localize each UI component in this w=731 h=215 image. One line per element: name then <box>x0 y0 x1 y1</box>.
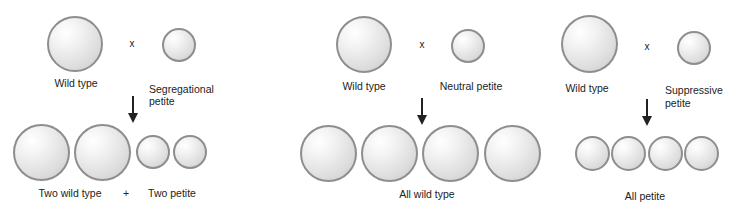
plus-symbol: + <box>123 187 129 199</box>
down-arrow-icon <box>132 96 134 115</box>
progeny-petite-cell <box>173 135 207 169</box>
suppressive-petite-label-line1: Suppressive <box>665 84 723 96</box>
progeny-petite-cell <box>684 136 719 171</box>
progeny-petite-cell <box>648 136 683 171</box>
all-wild-type-label: All wild type <box>399 188 454 200</box>
progeny-wild-type-cell <box>74 124 131 181</box>
cross-symbol: x <box>130 38 135 49</box>
wild-type-label: Wild type <box>565 82 608 94</box>
cross-symbol: x <box>420 39 425 50</box>
wild-type-label: Wild type <box>54 77 97 89</box>
progeny-wild-type-cell <box>300 125 357 182</box>
all-petite-label: All petite <box>625 190 665 202</box>
wild-type-cell <box>561 15 618 73</box>
wild-type-cell <box>336 16 392 73</box>
progeny-wild-type-cell <box>361 125 418 182</box>
cross-symbol: x <box>645 41 650 52</box>
petite-cell <box>451 29 485 63</box>
suppressive-petite-label-line2: petite <box>665 97 691 109</box>
two-petite-label: Two petite <box>148 187 196 199</box>
progeny-wild-type-cell <box>484 125 541 182</box>
petite-cell <box>677 31 711 65</box>
down-arrow-icon <box>646 99 648 118</box>
segregational-petite-label-line1: Segregational <box>149 83 214 95</box>
wild-type-cell <box>47 16 103 72</box>
petite-cell <box>162 28 196 62</box>
progeny-wild-type-cell <box>13 124 70 181</box>
segregational-petite-label-line2: petite <box>149 95 175 107</box>
progeny-petite-cell <box>136 135 170 169</box>
down-arrow-icon <box>421 98 423 117</box>
wild-type-label: Wild type <box>342 80 385 92</box>
progeny-petite-cell <box>575 136 610 171</box>
progeny-wild-type-cell <box>422 125 479 182</box>
two-wild-type-label: Two wild type <box>38 187 101 199</box>
progeny-petite-cell <box>611 136 646 171</box>
neutral-petite-label: Neutral petite <box>440 80 502 92</box>
